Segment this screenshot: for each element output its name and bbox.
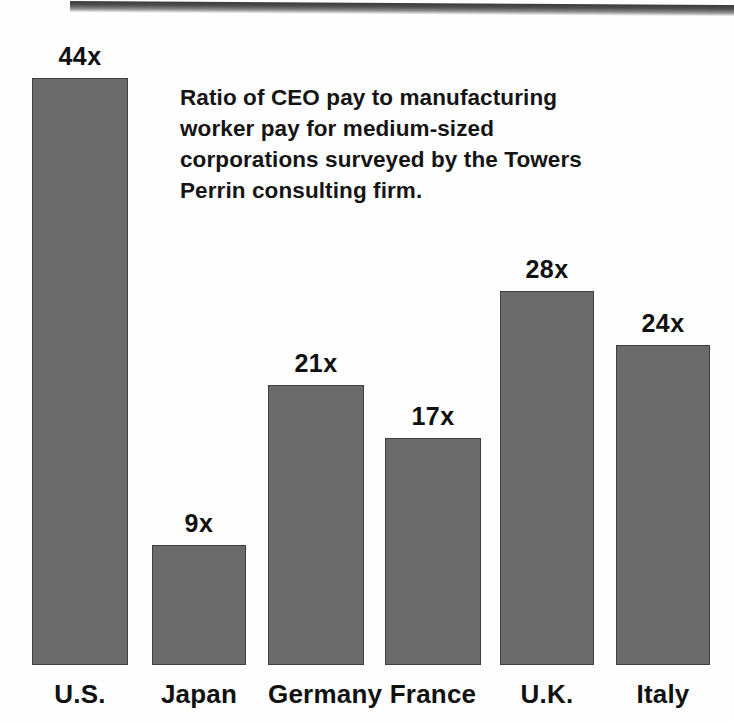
chart-caption: Ratio of CEO pay to manufacturing worker… [180, 82, 600, 206]
category-label-u-k: U.K. [500, 679, 594, 710]
bar-germany[interactable] [268, 385, 364, 665]
bar-u-k[interactable] [500, 291, 594, 665]
chart-page: 44xU.S.9xJapan21xGermany17xFrance28xU.K.… [0, 0, 734, 722]
category-label-italy: Italy [616, 679, 710, 710]
bar-group: 44xU.S. [32, 0, 128, 722]
category-label-u-s: U.S. [32, 679, 128, 710]
bar-italy[interactable] [616, 345, 710, 665]
category-label-germany: Germany [268, 679, 364, 710]
bar-japan[interactable] [152, 545, 246, 665]
bar-group: 24xItaly [616, 0, 710, 722]
bar-france[interactable] [385, 438, 481, 665]
bar-value-label: 24x [616, 309, 710, 338]
bar-value-label: 21x [268, 349, 364, 378]
category-label-japan: Japan [152, 679, 246, 710]
bar-u-s[interactable] [32, 78, 128, 665]
bar-value-label: 9x [152, 509, 246, 538]
category-label-france: France [385, 679, 481, 710]
bar-value-label: 17x [385, 402, 481, 431]
bar-value-label: 44x [32, 42, 128, 71]
bar-value-label: 28x [500, 255, 594, 284]
